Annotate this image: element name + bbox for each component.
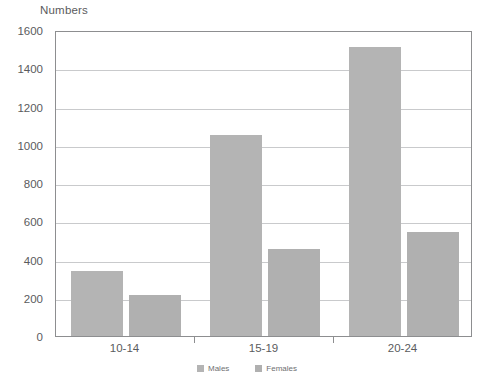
bar-females-20-24 [407,232,459,336]
gridline [56,70,471,71]
y-axis-tick-label: 1000 [0,140,49,152]
y-axis-tick-label: 200 [0,293,49,305]
x-axis-tick-labels: 10-1415-1920-24 [0,342,494,360]
plot-area [55,31,472,337]
legend-item: Females [255,364,297,373]
gridline [56,109,471,110]
y-axis-tick-label: 600 [0,216,49,228]
y-axis-tick-label: 800 [0,178,49,190]
chart-legend: MalesFemales [0,364,494,373]
gridline [56,223,471,224]
legend-swatch-icon [197,365,204,372]
legend-swatch-icon [255,365,262,372]
y-axis-tick-label: 1600 [0,25,49,37]
y-axis-tick-label: 1200 [0,102,49,114]
gridline [56,185,471,186]
bar-females-10-14 [129,295,181,336]
x-axis-tick-label: 10-14 [110,342,139,354]
legend-label: Males [208,364,229,373]
gridline [56,147,471,148]
y-axis-tick-label: 400 [0,255,49,267]
bar-males-15-19 [210,135,262,336]
legend-label: Females [266,364,297,373]
y-axis-tick-label: 1400 [0,63,49,75]
x-axis-tick-label: 20-24 [388,342,417,354]
x-axis-tick-label: 15-19 [249,342,278,354]
legend-item: Males [197,364,229,373]
y-axis-tick-labels: 02004006008001000120014001600 [0,0,49,385]
bar-females-15-19 [268,249,320,336]
bar-males-10-14 [71,271,123,336]
bar-males-20-24 [349,47,401,336]
